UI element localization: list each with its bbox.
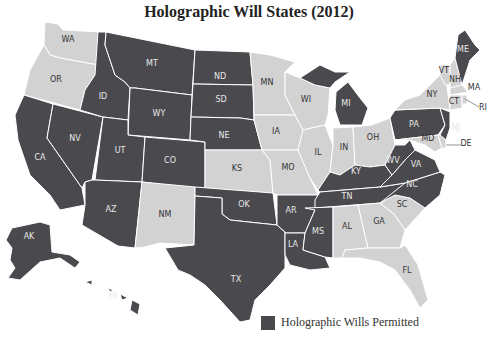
state-label-ne: NE: [218, 131, 229, 140]
state-label-ar: AR: [285, 206, 296, 215]
state-label-az: AZ: [106, 205, 117, 214]
state-label-wy: WY: [153, 109, 166, 118]
state-label-ct: CT: [449, 97, 460, 106]
state-label-ny: NY: [427, 90, 438, 99]
state-label-ri: RI: [479, 103, 487, 112]
state-label-mi: MI: [341, 99, 350, 108]
state-label-la: LA: [288, 240, 299, 249]
state-label-ks: KS: [232, 164, 242, 173]
state-label-vt: VT: [439, 66, 449, 75]
state-label-me: ME: [457, 45, 469, 54]
state-label-nj: NJ: [452, 123, 460, 132]
state-label-nh: NH: [449, 75, 461, 84]
state-label-pa: PA: [409, 120, 419, 129]
state-label-hi: HI: [109, 291, 117, 300]
us-map: WAORCANVIDMTWYUTCOAZNMNDSDNEKSOKTXMNIAMO…: [0, 0, 498, 339]
state-label-ca: CA: [34, 153, 46, 162]
state-label-co: CO: [164, 156, 176, 165]
state-label-in: IN: [340, 143, 348, 152]
state-label-al: AL: [342, 222, 352, 231]
state-label-nv: NV: [69, 134, 81, 143]
state-label-de: DE: [460, 139, 471, 148]
state-label-ma: MA: [468, 83, 481, 92]
state-label-nc: NC: [406, 180, 418, 189]
state-label-sd: SD: [215, 95, 226, 104]
state-label-mo: MO: [281, 163, 294, 172]
state-label-md: MD: [421, 134, 434, 143]
state-label-tx: TX: [230, 275, 242, 284]
legend-swatch-permitted: [261, 316, 275, 330]
state-label-ak: AK: [24, 232, 35, 241]
state-az: [82, 180, 142, 248]
state-label-wv: WV: [386, 156, 400, 165]
state-label-id: ID: [99, 92, 108, 101]
legend: Holographic Wills Permitted: [261, 315, 419, 330]
state-label-wa: WA: [62, 35, 75, 44]
state-label-sc: SC: [397, 200, 408, 209]
state-label-mn: MN: [261, 78, 274, 87]
state-label-or: OR: [50, 75, 62, 84]
state-label-fl: FL: [402, 266, 412, 275]
state-label-il: IL: [315, 148, 322, 157]
state-label-ok: OK: [238, 200, 250, 209]
state-label-wi: WI: [301, 95, 311, 104]
legend-label: Holographic Wills Permitted: [281, 315, 419, 330]
state-label-tn: TN: [341, 192, 353, 201]
state-fl: [342, 245, 428, 308]
state-label-oh: OH: [367, 133, 379, 142]
state-label-ut: UT: [115, 146, 126, 155]
state-label-mt: MT: [146, 59, 158, 68]
state-label-va: VA: [411, 160, 422, 169]
state-label-nm: NM: [159, 210, 172, 219]
state-label-nd: ND: [214, 72, 226, 81]
state-label-ga: GA: [373, 217, 385, 226]
state-label-ia: IA: [272, 127, 280, 136]
state-ak: [6, 222, 80, 280]
state-label-ms: MS: [312, 227, 324, 236]
state-label-ky: KY: [351, 167, 361, 176]
